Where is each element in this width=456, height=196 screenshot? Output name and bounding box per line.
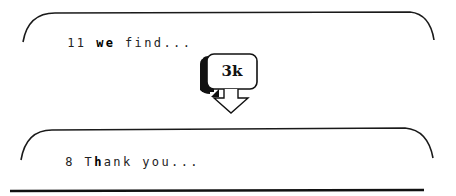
- top-rest: find...: [115, 36, 192, 50]
- top-panel-text: 11 we find...: [48, 22, 192, 50]
- badge-label: 3k: [207, 62, 257, 80]
- bottom-divider: [10, 190, 424, 191]
- down-arrow-icon: [214, 89, 248, 113]
- bottom-rest: ank you...: [104, 155, 200, 169]
- bottom-bold-letter: h: [94, 155, 104, 169]
- top-count: 11: [67, 36, 86, 50]
- top-bold-word: we: [96, 36, 115, 50]
- bottom-count: 8: [65, 155, 75, 169]
- bottom-panel-text: 8 Thank you...: [46, 141, 200, 169]
